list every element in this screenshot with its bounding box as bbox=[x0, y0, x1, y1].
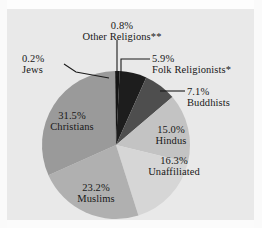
slice-percent-jews: 0.2% bbox=[22, 53, 76, 64]
slice-name-jews: Jews bbox=[22, 64, 76, 75]
slice-label-christians: 31.5% Christians bbox=[32, 110, 112, 133]
slice-label-unaffiliated: 16.3% Unaffiliated bbox=[132, 155, 216, 178]
slice-name-christians: Christians bbox=[32, 121, 112, 132]
slice-percent-buddhists: 7.1% bbox=[187, 86, 259, 97]
slice-percent-christians: 31.5% bbox=[32, 110, 112, 121]
slice-name-buddhists: Buddhists bbox=[187, 97, 259, 108]
slice-percent-folk-religionists: 5.9% bbox=[152, 53, 258, 64]
slice-percent-other-religions: 0.8% bbox=[62, 20, 182, 31]
slice-name-hindus: Hindus bbox=[140, 135, 202, 146]
slice-name-folk-religionists: Folk Religionists* bbox=[152, 64, 258, 75]
slice-percent-unaffiliated: 16.3% bbox=[132, 155, 216, 166]
slice-name-muslims: Muslims bbox=[60, 193, 132, 204]
slice-label-muslims: 23.2% Muslims bbox=[60, 182, 132, 205]
slice-percent-hindus: 15.0% bbox=[140, 124, 202, 135]
slice-percent-muslims: 23.2% bbox=[60, 182, 132, 193]
pie-chart-figure: 0.8% Other Religions** 0.2% Jews 5.9% Fo… bbox=[0, 0, 262, 228]
slice-label-buddhists: 7.1% Buddhists bbox=[187, 86, 259, 109]
slice-label-hindus: 15.0% Hindus bbox=[140, 124, 202, 147]
slice-name-unaffiliated: Unaffiliated bbox=[132, 166, 216, 177]
slice-label-jews: 0.2% Jews bbox=[22, 53, 76, 76]
slice-label-other-religions: 0.8% Other Religions** bbox=[62, 20, 182, 43]
slice-name-other-religions: Other Religions** bbox=[62, 31, 182, 42]
slice-label-folk-religionists: 5.9% Folk Religionists* bbox=[152, 53, 258, 76]
